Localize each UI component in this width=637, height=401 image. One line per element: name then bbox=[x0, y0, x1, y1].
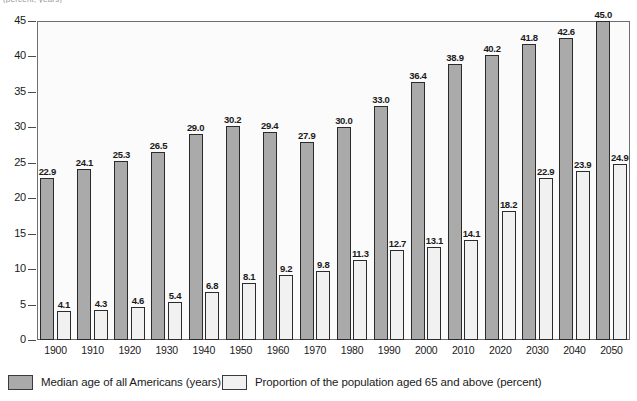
y-axis-tick-mark bbox=[28, 56, 36, 57]
bar-group: 29.06.8 bbox=[185, 21, 222, 340]
legend-item[interactable]: Proportion of the population aged 65 and… bbox=[222, 371, 542, 393]
bar-proportion-65-plus: 5.4 bbox=[168, 302, 182, 340]
bar-group: 30.011.3 bbox=[334, 21, 371, 340]
bar-value-label: 22.9 bbox=[537, 166, 554, 177]
y-axis-tick-label: 5 bbox=[20, 298, 26, 311]
bar-group: 40.218.2 bbox=[482, 21, 519, 340]
x-axis-tick-label: 1950 bbox=[222, 344, 259, 357]
bar-median-age: 36.4 bbox=[411, 82, 425, 340]
bar-value-label: 33.0 bbox=[372, 94, 389, 105]
legend-label: Median age of all Americans (years) bbox=[41, 375, 221, 389]
bar-proportion-65-plus: 13.1 bbox=[427, 247, 441, 340]
bar-value-label: 25.3 bbox=[113, 149, 130, 160]
bar-proportion-65-plus: 14.1 bbox=[464, 240, 478, 340]
x-axis-tick-label: 1970 bbox=[296, 344, 333, 357]
bar-median-age: 25.3 bbox=[114, 161, 128, 340]
y-axis-tick-label: 15 bbox=[14, 227, 26, 240]
x-axis-tick-label: 2020 bbox=[482, 344, 519, 357]
bar-group: 45.024.9 bbox=[593, 21, 630, 340]
y-axis-tick-mark bbox=[28, 305, 36, 306]
y-axis-tick-mark bbox=[28, 21, 36, 22]
x-axis-tick-label: 1960 bbox=[259, 344, 296, 357]
x-axis-tick-label: 2030 bbox=[519, 344, 556, 357]
bar-group: 24.14.3 bbox=[74, 21, 111, 340]
bar-proportion-65-plus: 24.9 bbox=[613, 164, 627, 341]
bar-value-label: 11.3 bbox=[352, 248, 369, 259]
bar-value-label: 38.9 bbox=[446, 52, 463, 63]
bar-group: 30.28.1 bbox=[222, 21, 259, 340]
bar-group: 38.914.1 bbox=[445, 21, 482, 340]
bar-value-label: 27.9 bbox=[298, 130, 315, 141]
bar-median-age: 45.0 bbox=[596, 21, 610, 340]
x-axis-tick-label: 2000 bbox=[408, 344, 445, 357]
y-axis-tick-label: 45 bbox=[14, 14, 26, 27]
bar-group: 36.413.1 bbox=[408, 21, 445, 340]
bar-value-label: 23.9 bbox=[574, 159, 591, 170]
bar-value-label: 12.7 bbox=[389, 238, 406, 249]
bar-median-age: 30.2 bbox=[226, 126, 240, 340]
bar-value-label: 4.6 bbox=[132, 295, 144, 306]
x-axis-tick-label: 1910 bbox=[74, 344, 111, 357]
bar-group: 22.94.1 bbox=[37, 21, 74, 340]
bar-proportion-65-plus: 22.9 bbox=[539, 178, 553, 340]
x-axis-tick-label: 1920 bbox=[111, 344, 148, 357]
bar-value-label: 26.5 bbox=[150, 140, 167, 151]
bar-median-age: 24.1 bbox=[77, 169, 91, 340]
bar-value-label: 4.3 bbox=[95, 298, 107, 309]
bar-proportion-65-plus: 18.2 bbox=[502, 211, 516, 340]
bar-value-label: 4.1 bbox=[58, 299, 70, 310]
bar-value-label: 9.8 bbox=[317, 259, 329, 270]
bar-proportion-65-plus: 4.3 bbox=[94, 310, 108, 340]
bar-proportion-65-plus: 12.7 bbox=[390, 250, 404, 340]
y-axis-tick-mark bbox=[28, 269, 36, 270]
y-axis: 051015202530354045 bbox=[0, 21, 37, 340]
bar-median-age: 30.0 bbox=[337, 127, 351, 340]
bar-median-age: 22.9 bbox=[40, 178, 54, 340]
x-axis-tick-label: 1940 bbox=[185, 344, 222, 357]
y-axis-tick-label: 20 bbox=[14, 191, 26, 204]
y-axis-tick-mark bbox=[28, 127, 36, 128]
bar-median-age: 29.4 bbox=[263, 132, 277, 340]
bar-group: 27.99.8 bbox=[296, 21, 333, 340]
bar-value-label: 5.4 bbox=[169, 290, 181, 301]
y-axis-tick-label: 40 bbox=[14, 49, 26, 62]
bar-median-age: 33.0 bbox=[374, 106, 388, 340]
bar-value-label: 40.2 bbox=[483, 43, 500, 54]
bar-proportion-65-plus: 6.8 bbox=[205, 292, 219, 340]
bar-value-label: 29.0 bbox=[187, 122, 204, 133]
y-axis-tick-label: 0 bbox=[20, 333, 26, 346]
x-axis-tick-label: 2050 bbox=[593, 344, 630, 357]
y-axis-tick-mark bbox=[28, 340, 36, 341]
bar-value-label: 30.2 bbox=[224, 114, 241, 125]
y-axis-tick-mark bbox=[28, 163, 36, 164]
bar-value-label: 9.2 bbox=[280, 263, 292, 274]
legend-swatch-icon bbox=[222, 375, 247, 390]
bar-median-age: 41.8 bbox=[522, 44, 536, 340]
bar-median-age: 42.6 bbox=[559, 38, 573, 340]
bar-median-age: 27.9 bbox=[300, 142, 314, 340]
x-axis: 1900191019201930194019501960197019801990… bbox=[37, 341, 630, 363]
legend-item[interactable]: Median age of all Americans (years) bbox=[8, 371, 221, 393]
bar-group: 25.34.6 bbox=[111, 21, 148, 340]
y-axis-tick-mark bbox=[28, 198, 36, 199]
bar-value-label: 14.1 bbox=[463, 228, 480, 239]
bar-value-label: 42.6 bbox=[558, 26, 575, 37]
bar-median-age: 38.9 bbox=[448, 64, 462, 340]
bar-group: 26.55.4 bbox=[148, 21, 185, 340]
y-axis-tick-label: 35 bbox=[14, 85, 26, 98]
bar-value-label: 24.9 bbox=[611, 152, 628, 163]
bar-group: 33.012.7 bbox=[371, 21, 408, 340]
bar-proportion-65-plus: 23.9 bbox=[576, 171, 590, 340]
x-axis-tick-label: 1990 bbox=[371, 344, 408, 357]
top-caption: (percent, years) bbox=[3, 0, 62, 3]
bar-value-label: 6.8 bbox=[206, 280, 218, 291]
y-axis-tick-mark bbox=[28, 234, 36, 235]
bar-value-label: 45.0 bbox=[595, 9, 612, 20]
bar-proportion-65-plus: 4.6 bbox=[131, 307, 145, 340]
bar-proportion-65-plus: 11.3 bbox=[353, 260, 367, 340]
y-axis-tick-label: 10 bbox=[14, 262, 26, 275]
bar-value-label: 13.1 bbox=[426, 235, 443, 246]
bar-value-label: 30.0 bbox=[335, 115, 352, 126]
bar-group: 42.623.9 bbox=[556, 21, 593, 340]
x-axis-tick-label: 2040 bbox=[556, 344, 593, 357]
